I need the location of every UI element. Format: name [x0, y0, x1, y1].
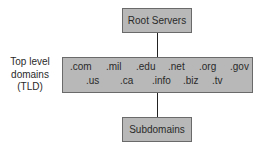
tld-node: .com .mil .edu .net .org .gov .us .ca .i… [62, 57, 253, 93]
tld-side-label: Top level domains (TLD) [0, 56, 60, 94]
tld-ca: .ca [120, 75, 133, 86]
tld-info: .info [152, 75, 171, 86]
root-to-tld-connector [157, 33, 158, 57]
tld-row-2: .us .ca .info .biz .tv [69, 75, 246, 89]
subdomains-node: Subdomains [122, 117, 192, 142]
tld-edu: .edu [136, 61, 155, 72]
tld-side-label-line-1: Top level [0, 56, 60, 69]
tld-side-label-line-3: (TLD) [0, 81, 60, 94]
root-servers-node: Root Servers [122, 8, 192, 33]
tld-com: .com [70, 61, 92, 72]
root-servers-label: Root Servers [128, 15, 186, 26]
tld-org: .org [199, 61, 216, 72]
subdomains-label: Subdomains [129, 124, 185, 135]
tld-row-1: .com .mil .edu .net .org .gov [69, 61, 246, 75]
tld-tv: .tv [212, 75, 223, 86]
tld-gov: .gov [230, 61, 249, 72]
tld-side-label-line-2: domains [0, 69, 60, 82]
tld-biz: .biz [183, 75, 199, 86]
tld-to-subdomains-connector [157, 93, 158, 117]
tld-net: .net [168, 61, 185, 72]
tld-mil: .mil [106, 61, 122, 72]
tld-us: .us [86, 75, 99, 86]
